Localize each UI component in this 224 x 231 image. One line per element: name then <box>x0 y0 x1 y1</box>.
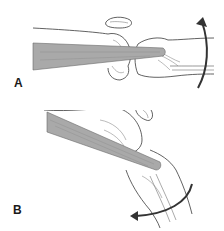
rotation-arrow-up-icon <box>198 22 207 88</box>
knee-extension-illustration <box>0 0 224 112</box>
panel-a: A <box>0 0 224 112</box>
knee-flexion-illustration <box>0 110 224 231</box>
panel-b: B <box>0 110 224 231</box>
rotation-arrow-left-icon <box>136 184 192 216</box>
graft <box>33 43 165 70</box>
panel-label-a: A <box>14 76 23 90</box>
panel-label-b: B <box>13 203 22 217</box>
